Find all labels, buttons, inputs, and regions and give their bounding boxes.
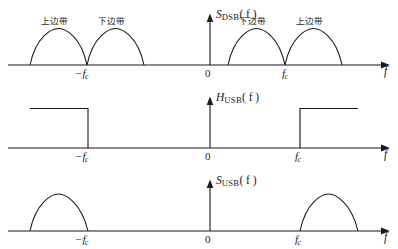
lobe-upper-sideband-negative — [30, 29, 87, 66]
ordinate-symbol: S — [216, 174, 222, 186]
tick-positive-carrier-husb: fc — [295, 151, 301, 162]
tick-positive-carrier-susb: fc — [295, 234, 301, 245]
panel-susb-plot — [0, 166, 398, 249]
tick-positive-carrier-dsb: fc — [282, 68, 288, 79]
figure-canvas: SDSB( f ) 上边带 下边带 下边带 上边带 −fc 0 fc f HUS… — [0, 0, 398, 249]
ordinate-subscript: DSB — [222, 12, 240, 22]
panel-dsb-plot — [0, 0, 398, 83]
tick-origin-husb: 0 — [205, 151, 211, 162]
ordinate-label-husb: HUSB( f ) — [216, 92, 259, 104]
lobe-upper-sideband-positive — [300, 194, 358, 231]
ordinate-subscript: USB — [222, 178, 240, 188]
ordinate-argument: ( f ) — [239, 174, 256, 186]
panel-husb-plot — [0, 83, 398, 166]
caption-upper-sideband-negative: 上边带 — [41, 17, 69, 26]
passband-positive — [300, 109, 358, 149]
panel-susb-spectrum: SUSB( f ) −fc 0 fc f — [0, 166, 398, 249]
tick-negative-carrier-dsb: −fc — [75, 68, 89, 79]
tick-negative-carrier-husb: −fc — [75, 151, 89, 162]
ordinate-label-susb: SUSB( f ) — [216, 175, 257, 187]
lobe-upper-sideband-negative — [30, 194, 88, 231]
axis-label-frequency-susb: f — [384, 232, 387, 244]
amplitude-axis-arrowhead — [207, 14, 214, 23]
caption-upper-sideband-positive: 上边带 — [296, 17, 324, 26]
amplitude-axis-arrowhead — [207, 180, 214, 189]
amplitude-axis-arrowhead — [207, 97, 214, 106]
caption-lower-sideband-positive: 下边带 — [239, 17, 267, 26]
lobe-lower-sideband-positive — [228, 29, 285, 66]
caption-lower-sideband-negative: 下边带 — [98, 17, 126, 26]
axis-label-frequency-husb: f — [384, 149, 387, 161]
panel-dsb-spectrum: SDSB( f ) 上边带 下边带 下边带 上边带 −fc 0 fc f — [0, 0, 398, 83]
ordinate-symbol: S — [216, 8, 222, 20]
tick-origin-dsb: 0 — [205, 68, 211, 79]
axis-label-frequency-dsb: f — [384, 66, 387, 78]
ordinate-argument: ( f ) — [242, 91, 259, 103]
panel-husb-filter: HUSB( f ) −fc 0 fc f — [0, 83, 398, 166]
tick-origin-susb: 0 — [205, 234, 211, 245]
ordinate-subscript: USB — [224, 95, 242, 105]
tick-negative-carrier-susb: −fc — [75, 234, 89, 245]
lobe-lower-sideband-negative — [87, 29, 144, 66]
passband-negative — [30, 109, 88, 149]
lobe-upper-sideband-positive — [285, 29, 342, 66]
